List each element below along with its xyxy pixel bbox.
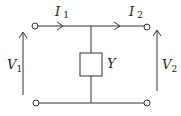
label-i1: I1 bbox=[54, 4, 69, 20]
label-v2: V2 bbox=[162, 57, 177, 74]
terminal-bottom-left bbox=[33, 100, 39, 106]
terminal-top-left bbox=[32, 23, 38, 29]
label-i2: I2 bbox=[128, 4, 143, 20]
terminal-top-right bbox=[144, 24, 150, 30]
label-v1: V1 bbox=[7, 57, 22, 74]
circuit-diagram: I1 I2 V1 V2 Y bbox=[0, 0, 181, 116]
label-y: Y bbox=[107, 56, 117, 71]
admittance-box bbox=[80, 53, 102, 76]
terminal-bottom-right bbox=[144, 100, 150, 106]
